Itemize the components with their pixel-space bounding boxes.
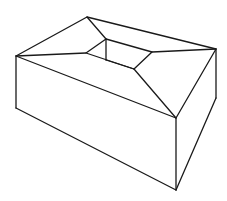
box-sides — [16, 49, 216, 190]
top-outer-rim — [16, 17, 216, 118]
inner-opening — [86, 39, 152, 69]
box-diagram — [0, 0, 227, 201]
